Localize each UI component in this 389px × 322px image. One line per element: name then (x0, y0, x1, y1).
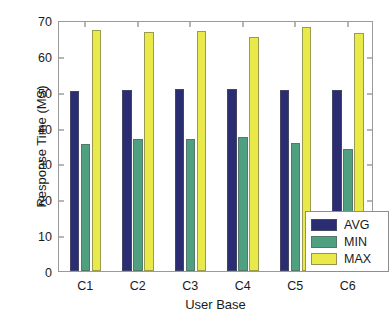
y-tick-mark (59, 237, 64, 238)
bar-max-c1 (92, 30, 102, 271)
y-tick-mark (367, 165, 372, 166)
y-tick-mark (367, 201, 372, 202)
x-axis-title: User Base (58, 297, 373, 312)
y-tick-label: 0 (45, 266, 59, 280)
y-tick-label: 30 (38, 158, 59, 172)
legend-item-max[interactable]: MAX (311, 250, 383, 267)
legend-item-avg[interactable]: AVG (311, 216, 383, 233)
y-tick-label: 70 (38, 15, 59, 29)
bar-min-c2 (133, 139, 143, 271)
x-tick-mark (295, 22, 296, 27)
y-tick-mark (59, 201, 64, 202)
bar-min-c3 (186, 139, 196, 271)
bar-max-c4 (249, 37, 259, 271)
bar-avg-c3 (175, 89, 185, 271)
y-tick-mark (367, 129, 372, 130)
bar-avg-c4 (227, 89, 237, 271)
bar-avg-c5 (280, 90, 290, 271)
x-tick-mark (137, 22, 138, 27)
x-tick-label: C2 (130, 271, 146, 293)
x-tick-mark (242, 22, 243, 27)
x-tick-mark (347, 22, 348, 27)
legend-label: MAX (344, 252, 371, 266)
x-tick-mark (85, 22, 86, 27)
bar-min-c5 (291, 143, 301, 271)
x-tick-mark (190, 22, 191, 27)
chart-legend: AVGMINMAX (305, 211, 389, 272)
y-tick-mark (367, 57, 372, 58)
legend-swatch-min (311, 236, 337, 248)
y-tick-mark (59, 93, 64, 94)
legend-swatch-max (311, 253, 337, 265)
bar-max-c2 (144, 32, 154, 271)
x-tick-label: C6 (340, 271, 356, 293)
y-tick-label: 50 (38, 87, 59, 101)
x-tick-label: C1 (77, 271, 93, 293)
bar-avg-c2 (122, 90, 132, 271)
y-tick-mark (367, 93, 372, 94)
y-tick-label: 40 (38, 123, 59, 137)
legend-label: MIN (344, 235, 367, 249)
x-tick-label: C3 (182, 271, 198, 293)
legend-label: AVG (344, 218, 369, 232)
y-tick-mark (59, 129, 64, 130)
legend-swatch-avg (311, 219, 337, 231)
plot-area: 010203040506070 C1C2C3C4C5C6 AVGMINMAX (58, 21, 373, 272)
legend-item-min[interactable]: MIN (311, 233, 383, 250)
bar-min-c1 (81, 144, 91, 271)
y-tick-mark (59, 165, 64, 166)
y-tick-label: 10 (38, 230, 59, 244)
x-tick-label: C4 (235, 271, 251, 293)
bar-avg-c1 (70, 91, 80, 271)
bar-min-c4 (238, 137, 248, 271)
bar-max-c3 (197, 31, 207, 271)
y-tick-label: 60 (38, 51, 59, 65)
y-tick-mark (59, 57, 64, 58)
y-tick-label: 20 (38, 194, 59, 208)
x-tick-label: C5 (287, 271, 303, 293)
